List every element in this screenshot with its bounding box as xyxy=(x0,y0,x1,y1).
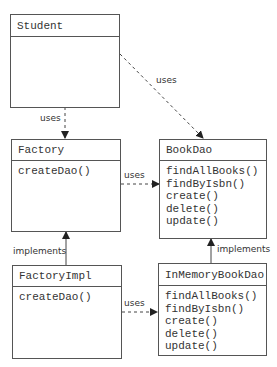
class-factoryimpl[interactable]: FactoryImpl createDao() xyxy=(12,265,122,359)
class-student[interactable]: Student xyxy=(10,14,120,108)
label-implements-inmemory-bookdao: implements xyxy=(217,244,270,254)
operation: update() xyxy=(165,340,260,353)
class-factory-name: Factory xyxy=(12,140,120,161)
class-student-name: Student xyxy=(11,15,119,37)
label-uses-student-bookdao: uses xyxy=(156,75,177,85)
class-factoryimpl-name: FactoryImpl xyxy=(13,266,121,287)
label-uses-factoryimpl-inmemory: uses xyxy=(124,298,145,308)
class-factory[interactable]: Factory createDao() xyxy=(11,139,121,232)
class-factory-operations: createDao() xyxy=(12,161,120,182)
class-inmemorybookdao-operations: findAllBooks() findByIsbn() create() del… xyxy=(159,286,266,357)
operation: findAllBooks() xyxy=(165,290,260,303)
class-student-operations xyxy=(11,37,119,45)
operation: delete() xyxy=(165,328,260,341)
operation: findByIsbn() xyxy=(166,178,260,191)
class-bookdao[interactable]: BookDao findAllBooks() findByIsbn() crea… xyxy=(159,139,267,239)
class-bookdao-operations: findAllBooks() findByIsbn() create() del… xyxy=(160,161,266,232)
operation: findByIsbn() xyxy=(165,303,260,316)
uses-arrow-student-bookdao xyxy=(120,54,203,138)
class-inmemorybookdao[interactable]: InMemoryBookDao findAllBooks() findByIsb… xyxy=(158,263,267,356)
label-uses-student-factory: uses xyxy=(40,113,61,123)
class-bookdao-name: BookDao xyxy=(160,140,266,161)
class-inmemorybookdao-name: InMemoryBookDao xyxy=(159,264,266,286)
operation: findAllBooks() xyxy=(166,165,260,178)
label-uses-factory-bookdao: uses xyxy=(124,170,145,180)
operation: createDao() xyxy=(19,291,115,304)
class-factoryimpl-operations: createDao() xyxy=(13,287,121,308)
operation: create() xyxy=(166,190,260,203)
label-implements-factoryimpl-factory: implements xyxy=(13,246,66,256)
operation: create() xyxy=(165,315,260,328)
operation: createDao() xyxy=(18,165,114,178)
operation: update() xyxy=(166,215,260,228)
operation: delete() xyxy=(166,203,260,216)
